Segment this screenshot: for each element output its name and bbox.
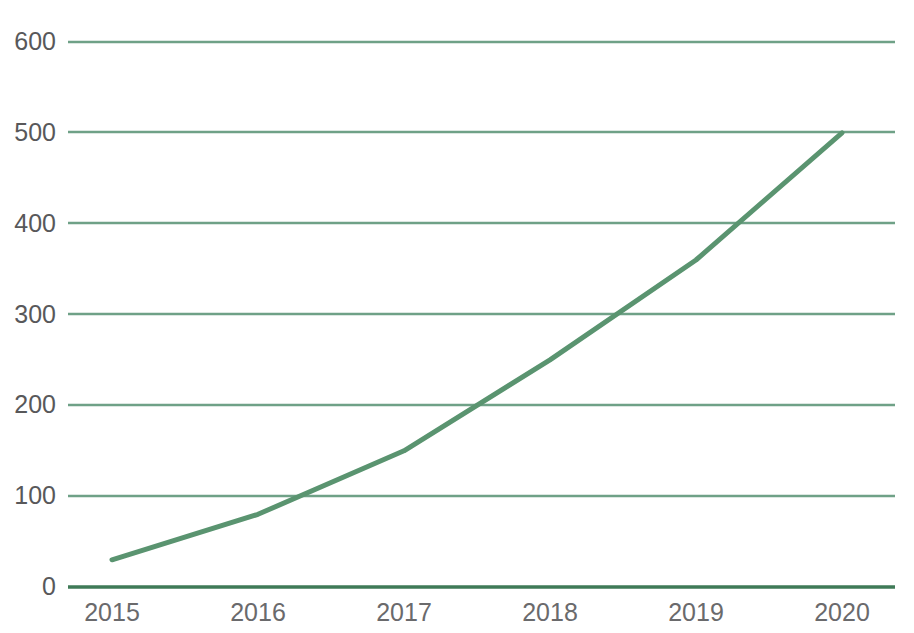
y-tick-label-300: 300	[14, 302, 56, 327]
x-tick-label-2019: 2019	[636, 600, 756, 625]
y-tick-label-0: 0	[42, 574, 56, 599]
line-chart: 0100200300400500600 20152016201720182019…	[0, 0, 914, 633]
x-tick-label-2016: 2016	[198, 600, 318, 625]
x-tick-label-2015: 2015	[52, 600, 172, 625]
y-tick-label-600: 600	[14, 29, 56, 54]
chart-plot-area	[0, 0, 914, 633]
x-tick-label-2017: 2017	[344, 600, 464, 625]
x-tick-label-2018: 2018	[490, 600, 610, 625]
x-tick-label-2020: 2020	[782, 600, 902, 625]
y-tick-label-200: 200	[14, 392, 56, 417]
y-tick-label-400: 400	[14, 211, 56, 236]
y-tick-label-100: 100	[14, 483, 56, 508]
y-tick-label-500: 500	[14, 120, 56, 145]
gridlines-group	[68, 42, 895, 496]
